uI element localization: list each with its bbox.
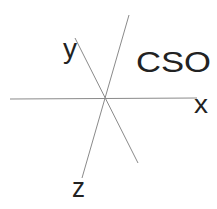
cso-title: CSO <box>136 45 211 78</box>
x-axis-line <box>10 98 197 99</box>
x-axis-label: x <box>194 89 208 119</box>
z-axis-label: z <box>72 172 85 203</box>
coordinate-system-diagram: CSO x y z <box>0 0 217 209</box>
z-axis-line <box>82 15 129 178</box>
y-axis-line <box>75 38 138 163</box>
y-axis-label: y <box>63 33 77 64</box>
